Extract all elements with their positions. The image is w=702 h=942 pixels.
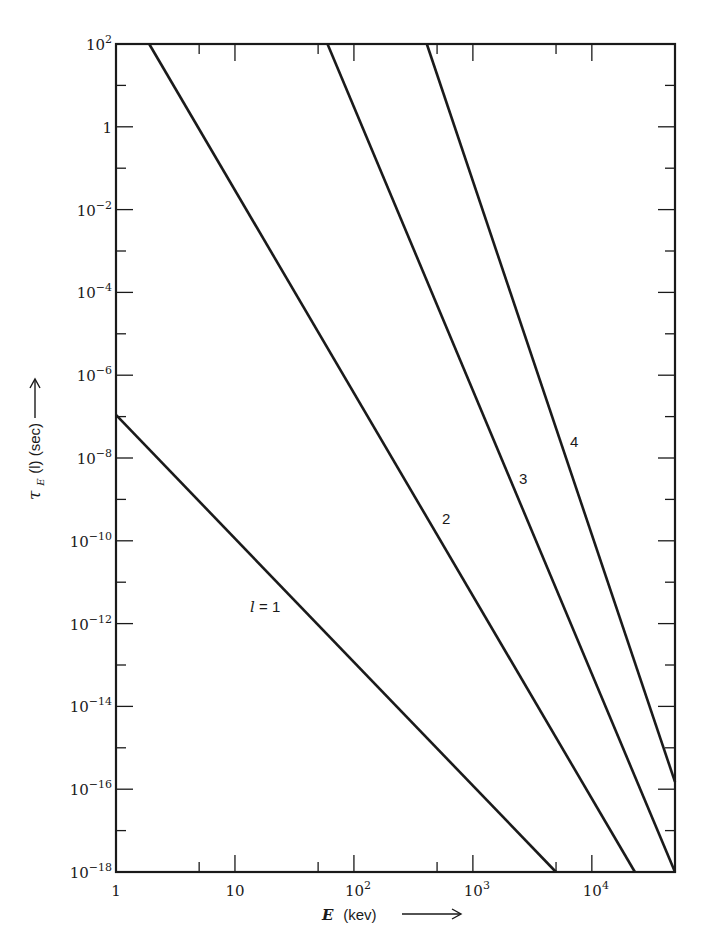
y-tick-label: 10−6 — [77, 364, 112, 385]
curve-l1 — [116, 415, 556, 872]
y-tick-label: 10−18 — [70, 861, 112, 882]
y-tick-label: 10−12 — [70, 613, 112, 634]
x-axis-arrow-icon — [402, 909, 461, 919]
y-tick-label: 10−10 — [70, 530, 112, 551]
curve-l4 — [427, 44, 675, 782]
svg-text:τ E (l) (sec): τ E (l) (sec) — [24, 423, 48, 500]
x-axis-variable: E — [321, 906, 334, 924]
chart: 110102103104 102110−210−410−610−810−1010… — [0, 0, 702, 942]
y-tick-label: 10−8 — [77, 447, 112, 468]
y-axis-unit: (l) (sec) — [26, 423, 43, 474]
x-tick-label: 102 — [345, 879, 371, 900]
y-tick-label: 10−14 — [70, 695, 112, 716]
curve-l2 — [149, 44, 635, 872]
curve-l3 — [328, 44, 676, 872]
y-tick-label: 1 — [102, 119, 112, 137]
x-axis-title: E (kev) — [321, 906, 461, 924]
y-tick-labels: 102110−210−410−610−810−1010−1210−1410−16… — [70, 33, 112, 882]
axis-ticks — [116, 44, 675, 872]
x-tick-label: 1 — [111, 882, 121, 900]
curve-label-l4: 4 — [570, 433, 578, 450]
y-axis-subscript: E — [35, 478, 46, 487]
curves — [116, 44, 675, 872]
x-tick-label: 10 — [225, 882, 244, 900]
x-tick-label: 103 — [464, 879, 490, 900]
plot-border — [116, 44, 675, 872]
curve-label-l3: 3 — [519, 470, 527, 487]
plot-frame — [116, 44, 675, 872]
y-tick-label: 10−2 — [77, 199, 112, 220]
y-axis-arrow-icon — [30, 379, 40, 418]
svg-text:E (kev): E (kev) — [321, 906, 377, 924]
y-axis-title: τ E (l) (sec) — [24, 379, 48, 500]
x-tick-label: 104 — [583, 879, 609, 900]
y-tick-label: 10−16 — [70, 778, 112, 799]
curve-label-l2: 2 — [442, 510, 450, 527]
x-tick-labels: 110102103104 — [111, 879, 609, 900]
y-axis-variable: τ — [24, 490, 44, 500]
x-axis-unit: (kev) — [343, 906, 376, 923]
y-tick-label: 10−4 — [77, 281, 112, 302]
y-tick-label: 102 — [86, 33, 112, 54]
curve-label-l1: l = 1 — [250, 598, 280, 616]
